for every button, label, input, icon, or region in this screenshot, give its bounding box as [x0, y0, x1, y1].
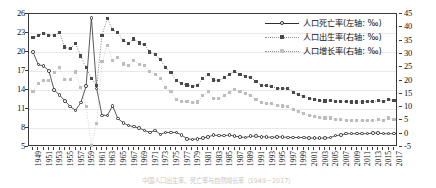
- x-tick: [138, 147, 139, 150]
- data-point: [143, 43, 146, 46]
- data-point: [148, 70, 151, 73]
- data-point: [238, 90, 241, 93]
- data-point: [169, 90, 172, 93]
- x-tick: [276, 147, 277, 150]
- data-point: [180, 100, 183, 103]
- x-tick: [266, 147, 267, 150]
- y-tick-left-label: 23: [1, 28, 25, 37]
- data-point: [207, 90, 210, 93]
- data-point: [366, 119, 369, 122]
- data-point: [143, 64, 146, 67]
- data-point: [79, 54, 82, 57]
- x-tick: [207, 147, 208, 150]
- data-point: [254, 98, 257, 101]
- data-point: [212, 133, 216, 137]
- data-point: [111, 28, 114, 31]
- x-tick: [388, 147, 389, 150]
- y-axis-right: 454035302520151050-5: [399, 13, 429, 146]
- x-tick: [292, 147, 293, 150]
- x-tick: [335, 147, 336, 150]
- data-point: [217, 79, 220, 82]
- x-tick-label: 1967: [131, 151, 139, 166]
- data-point: [345, 100, 348, 103]
- data-point: [164, 86, 167, 89]
- x-tick: [382, 147, 383, 150]
- data-point: [377, 99, 380, 102]
- y-tick-right: [399, 40, 402, 41]
- data-point: [323, 116, 326, 119]
- x-tick: [80, 147, 81, 150]
- data-point: [345, 119, 348, 122]
- data-point: [265, 84, 268, 87]
- data-point: [53, 34, 56, 37]
- data-point: [58, 31, 61, 34]
- y-tick-right: [399, 119, 402, 120]
- y-tick-right-label: 25: [404, 62, 428, 71]
- y-tick-right-label: 10: [404, 102, 428, 111]
- data-point: [228, 91, 231, 94]
- data-point: [323, 99, 326, 102]
- data-point: [244, 92, 247, 95]
- data-point: [355, 119, 358, 122]
- data-point: [69, 78, 72, 81]
- x-tick-label: 2017: [396, 151, 404, 166]
- x-tick: [64, 147, 65, 150]
- x-tick-label: 1953: [56, 151, 64, 166]
- y-tick-right-label: 0: [404, 129, 428, 138]
- data-point: [148, 131, 152, 135]
- data-point: [318, 99, 321, 102]
- x-tick: [112, 147, 113, 150]
- data-point: [308, 114, 311, 117]
- x-tick: [271, 147, 272, 150]
- legend-item-death-rate[interactable]: 人口死亡率(左轴: ‰): [265, 17, 393, 31]
- legend-item-birth-rate[interactable]: 人口出生率(右轴: ‰): [265, 31, 393, 45]
- data-point: [297, 110, 300, 113]
- y-tick-left-label: 26: [1, 9, 25, 18]
- x-tick: [159, 147, 160, 150]
- data-point: [270, 102, 273, 105]
- data-point: [302, 112, 305, 115]
- data-point: [238, 73, 241, 76]
- legend-marker-birth-rate: [265, 37, 299, 38]
- x-tick: [319, 147, 320, 150]
- y-tick-right: [399, 93, 402, 94]
- data-point: [387, 116, 390, 119]
- data-point: [122, 39, 125, 42]
- data-point: [355, 100, 358, 103]
- legend-item-growth-rate[interactable]: 人口增长率(右轴: ‰): [265, 45, 393, 59]
- x-tick: [175, 147, 176, 150]
- y-tick-left-label: 17: [1, 66, 25, 75]
- data-point: [212, 78, 215, 81]
- data-point: [122, 62, 125, 65]
- data-point: [169, 131, 173, 135]
- data-point: [318, 116, 321, 119]
- data-point: [169, 71, 172, 74]
- data-point: [244, 75, 247, 78]
- y-tick-right-label: 35: [404, 36, 428, 45]
- data-point: [260, 135, 264, 139]
- x-tick-label: 1979: [194, 151, 202, 166]
- x-tick: [223, 147, 224, 150]
- x-tick: [128, 147, 129, 150]
- x-tick: [202, 147, 203, 150]
- data-point: [329, 116, 332, 119]
- y-tick-right-label: 20: [404, 76, 428, 85]
- data-point: [366, 100, 369, 103]
- legend-marker-growth-rate: [265, 51, 299, 52]
- population-rate-chart: 26232017141185 454035302520151050-5 1949…: [0, 0, 436, 188]
- x-tick: [250, 147, 251, 150]
- x-tick: [372, 147, 373, 150]
- data-point: [217, 97, 220, 100]
- data-point: [302, 136, 306, 140]
- data-point: [63, 78, 66, 81]
- x-tick: [308, 147, 309, 150]
- x-tick: [122, 147, 123, 150]
- x-tick-label: 1955: [67, 151, 75, 166]
- data-point: [228, 73, 231, 76]
- x-tick: [313, 147, 314, 150]
- data-point: [175, 98, 178, 101]
- data-point: [254, 134, 258, 138]
- data-point: [111, 59, 114, 62]
- x-tick-label: 1957: [78, 151, 86, 166]
- data-point: [106, 44, 109, 47]
